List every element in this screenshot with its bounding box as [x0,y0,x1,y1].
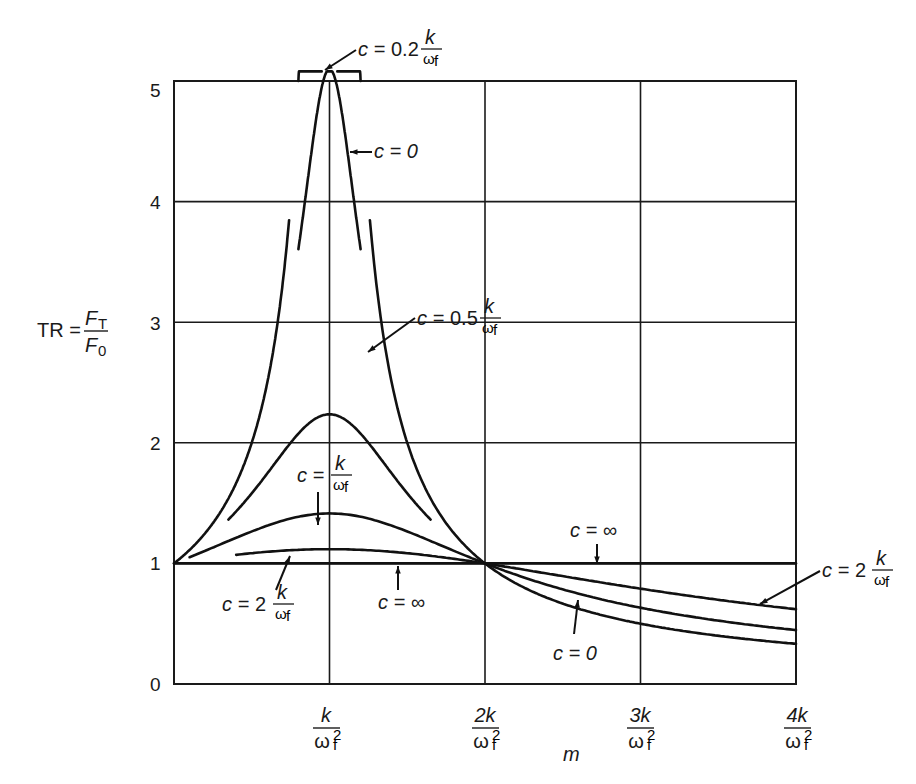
svg-text:2: 2 [492,726,500,743]
x-tick-1: k ω f 2 [313,704,341,753]
y-tick-1: 1 [150,553,161,574]
svg-text:2: 2 [804,726,812,743]
svg-text:f: f [434,52,439,69]
svg-text:2k: 2k [473,704,496,726]
y-tick-4: 4 [150,192,161,213]
svg-text:c = ∞: c = ∞ [378,591,425,613]
curve-c-0-peak-branch-0 [298,71,321,81]
svg-text:c =: c = [222,593,249,615]
svg-text:c =: c = [358,38,385,60]
y-axis-label: TR = F T F 0 [37,307,108,359]
leader-c-1-head [315,517,320,525]
svg-text:ω: ω [473,730,489,752]
leader-c-0-top-head [350,149,358,154]
svg-text:c =: c = [822,559,849,581]
svg-text:ω: ω [628,730,644,752]
svg-text:2: 2 [255,593,266,615]
annotation-c-inf-left: c = ∞ [378,591,425,613]
svg-text:f: f [344,478,349,495]
svg-text:f: f [493,321,498,338]
x-tick-2: 2k ω f 2 [472,704,500,753]
y-tick-labels: 0 1 2 3 4 5 [150,80,161,695]
svg-text:c = 0: c = 0 [553,642,597,664]
ylabel-den-sub: 0 [98,342,106,359]
y-tick-3: 3 [150,313,161,334]
svg-text:k: k [484,295,495,317]
svg-text:c = 0: c = 0 [374,140,418,162]
svg-text:4k: 4k [786,704,808,726]
ylabel-num: F [85,307,99,329]
leader-c-0.5 [368,318,415,352]
x-axis-label: m [563,743,580,765]
svg-text:c =: c = [297,464,324,486]
svg-text:k: k [425,26,436,48]
svg-text:c = ∞: c = ∞ [570,519,617,541]
ylabel-den: F [85,334,99,356]
y-tick-0: 0 [150,674,161,695]
annotation-c-2-left: c = 2 k ω f [222,581,294,624]
x-tick-4: 4k ω f 2 [784,704,812,753]
curve-c-2-k-f-0 [236,549,796,609]
svg-text:2: 2 [333,726,341,743]
annotation-c-2-right: c = 2 k ω f [822,547,893,590]
ylabel-prefix: TR = [37,319,81,341]
svg-text:k: k [277,581,288,603]
annotation-c-0-top: c = 0 [374,140,418,162]
annotation-leaders [276,50,820,634]
leader-c-2-right [760,571,820,604]
svg-text:2: 2 [647,726,655,743]
svg-text:c =: c = [417,307,444,329]
svg-text:f: f [286,607,291,624]
svg-text:ω: ω [785,730,801,752]
svg-text:f: f [885,573,890,590]
y-tick-5: 5 [150,80,161,101]
curve-c-0-0 [174,220,289,563]
svg-text:0.5: 0.5 [450,307,478,329]
svg-text:0.2: 0.2 [391,38,419,60]
svg-text:2: 2 [855,559,866,581]
svg-text:k: k [321,704,332,726]
annotation-c-1: c = k ω f [297,452,352,495]
annotation-c-inf-right: c = ∞ [570,519,617,541]
annotations: c = 0.2 k ω f c = 0 c = 0.5 k ω f c = k … [222,26,893,664]
annotation-c-0.5: c = 0.5 k ω f [417,295,501,338]
curve-c-0-peak-branch-1 [337,71,360,81]
y-tick-2: 2 [150,433,161,454]
annotation-c-0-bottom: c = 0 [553,642,597,664]
svg-text:3k: 3k [629,704,651,726]
annotation-c-0.2: c = 0.2 k ω f [358,26,442,69]
chart: 0 1 2 3 4 5 TR = F T F 0 k ω f 2 2k ω f … [0,0,916,784]
leader-c-2-right-head [760,598,768,604]
x-tick-3: 3k ω f 2 [627,704,655,753]
svg-text:ω: ω [314,730,330,752]
svg-text:k: k [876,547,887,569]
ylabel-num-sub: T [98,315,107,332]
svg-text:k: k [335,452,346,474]
leader-c-inf-left-head [395,566,400,574]
